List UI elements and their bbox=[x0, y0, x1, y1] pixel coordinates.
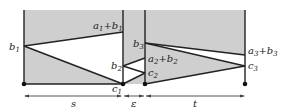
segment-b2-c2 bbox=[123, 66, 145, 73]
label-t: t bbox=[193, 98, 198, 109]
label-c1: c1 bbox=[112, 83, 122, 96]
dot-1 bbox=[22, 82, 27, 87]
label-a3-plus-b3: a3+b3 bbox=[248, 45, 278, 58]
label-s: s bbox=[71, 98, 76, 109]
interval-diagram: b1 a1+b1 b2 c1 b3 a2+b2 c2 a3+b3 c3 s ε … bbox=[0, 0, 285, 112]
label-b2: b2 bbox=[111, 60, 122, 73]
dot-3 bbox=[143, 82, 148, 87]
dot-2 bbox=[121, 82, 126, 87]
label-epsilon: ε bbox=[131, 98, 136, 109]
label-b1: b1 bbox=[9, 41, 20, 54]
dot-4 bbox=[243, 82, 248, 87]
label-c3: c3 bbox=[248, 60, 259, 73]
